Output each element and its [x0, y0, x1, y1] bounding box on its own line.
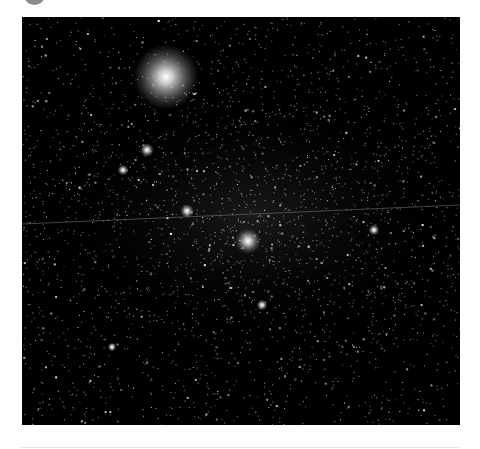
divider	[20, 447, 460, 448]
avatar	[24, 0, 45, 5]
star-field-image	[22, 17, 460, 425]
star-field-canvas	[22, 17, 460, 425]
